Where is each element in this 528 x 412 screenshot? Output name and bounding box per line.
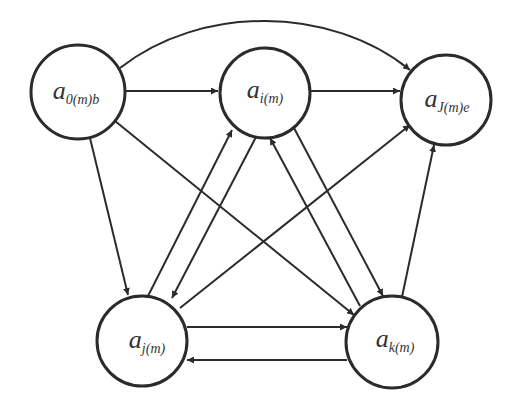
node-ai-circle — [220, 48, 310, 138]
state-transition-diagram — [0, 0, 528, 412]
edge-ak-to-aJ — [402, 145, 434, 297]
node-a0-circle — [31, 45, 125, 139]
node-ak-circle — [346, 296, 438, 388]
edge-a0-to-aj — [90, 138, 128, 295]
edge-a0-to-ak — [115, 121, 354, 315]
edge-ak-to-ai — [270, 138, 360, 306]
node-aj-circle — [97, 296, 187, 386]
edge-ai-to-ak — [294, 128, 383, 296]
edge-ai-to-aj — [172, 137, 256, 298]
edge-aj-to-ai — [148, 130, 232, 296]
node-aJ-circle — [401, 55, 491, 145]
